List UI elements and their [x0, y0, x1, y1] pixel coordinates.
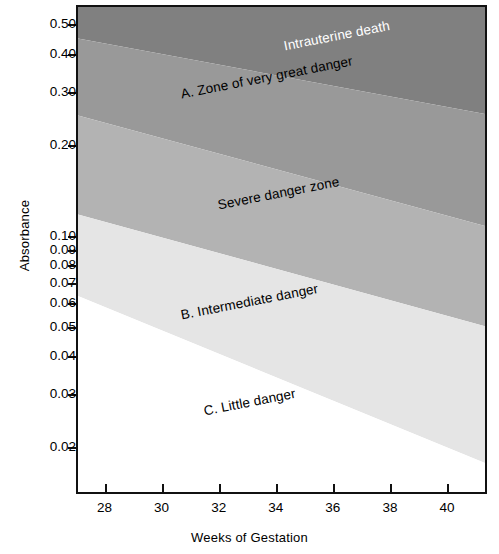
- plot-area: Intrauterine deathA. Zone of very great …: [76, 5, 487, 494]
- x-tick-label: 38: [370, 500, 410, 515]
- y-tick-label: 0.04: [22, 349, 76, 363]
- x-tick-mark: [333, 484, 335, 494]
- y-tick-label: 0.03: [22, 387, 76, 401]
- y-tick-label: 0.30: [22, 85, 76, 99]
- x-tick-label: 32: [199, 500, 239, 515]
- x-axis-title: Weeks of Gestation: [0, 530, 499, 545]
- y-tick-label: 0.06: [22, 296, 76, 310]
- liley-graph-figure: Absorbance 0.020.030.040.050.060.070.080…: [0, 0, 499, 554]
- y-tick-label: 0.08: [22, 258, 76, 272]
- y-tick-label: 0.09: [22, 243, 76, 257]
- x-tick-mark: [390, 484, 392, 494]
- y-axis-ticks: 0.020.030.040.050.060.070.080.090.100.20…: [0, 0, 76, 554]
- x-tick-mark: [162, 484, 164, 494]
- y-tick-label: 0.40: [22, 47, 76, 61]
- y-tick-label: 0.20: [22, 138, 76, 152]
- x-tick-mark: [276, 484, 278, 494]
- x-tick-label: 40: [427, 500, 467, 515]
- x-tick-mark: [219, 484, 221, 494]
- x-tick-label: 36: [313, 500, 353, 515]
- y-tick-label: 0.07: [22, 276, 76, 290]
- x-tick-label: 30: [142, 500, 182, 515]
- y-tick-label: 0.10: [22, 229, 76, 243]
- y-tick-label: 0.50: [22, 18, 76, 32]
- y-tick-label: 0.05: [22, 320, 76, 334]
- x-tick-label: 28: [85, 500, 125, 515]
- y-tick-label: 0.02: [22, 440, 76, 454]
- x-tick-mark: [105, 484, 107, 494]
- x-tick-label: 34: [256, 500, 296, 515]
- x-tick-mark: [447, 484, 449, 494]
